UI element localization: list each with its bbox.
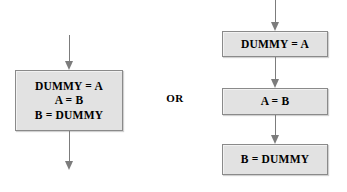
process-box-b-assign: B = DUMMY [222,144,328,175]
arrow-head [271,79,279,88]
process-box-text: DUMMY = A [241,37,309,51]
process-box-text: B = DUMMY [241,152,309,166]
process-box-text: A = B [261,94,290,108]
right-arrow-box1-to-box2-icon [270,57,281,88]
arrow-head [271,135,279,144]
process-box-line-2: A = B [55,93,84,107]
arrow-shaft [69,131,70,161]
process-box-a-assign: A = B [222,88,328,115]
arrow-shaft [275,0,276,22]
right-arrow-box2-to-box3-icon [270,115,281,144]
arrow-shaft [275,57,276,79]
process-box-line-1: DUMMY = A [35,79,103,93]
arrow-head [271,22,279,31]
process-box-dummy-assign: DUMMY = A [222,31,328,57]
arrow-head [65,161,73,170]
right-inbound-arrow-icon [270,0,281,31]
arrow-head [65,61,73,70]
arrow-shaft [69,35,70,61]
arrow-shaft [275,115,276,135]
process-box-combined-swap: DUMMY = A A = B B = DUMMY [15,70,123,131]
left-inbound-arrow-icon [64,35,75,70]
process-box-line-3: B = DUMMY [35,108,103,122]
or-connector-label: OR [155,92,195,104]
flowchart-diagram: DUMMY = A A = B B = DUMMY OR DUMMY = A A… [0,0,347,192]
left-outbound-arrow-icon [64,131,75,170]
